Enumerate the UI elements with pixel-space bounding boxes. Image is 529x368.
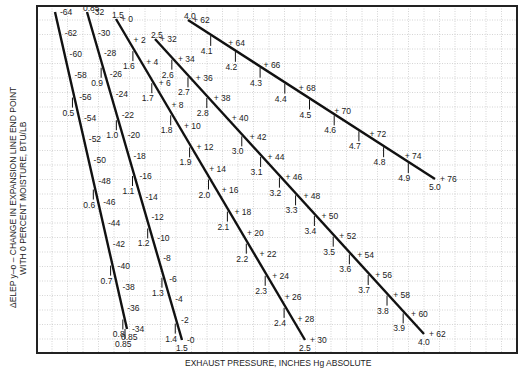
value-label: + 12 — [197, 142, 214, 152]
pressure-label: 4.9 — [398, 173, 410, 183]
value-label: + 46 — [286, 172, 303, 182]
value-label: + 62 — [429, 329, 446, 339]
pressure-label: 3.0 — [232, 146, 244, 156]
pressure-label: 3.8 — [377, 306, 389, 316]
y-axis-label: ΔELEP y–o – CHANGE IN EXPANSION LINE END… — [6, 40, 46, 310]
value-label: -22 — [122, 110, 135, 120]
pressure-label: 0.7 — [101, 276, 113, 286]
pressure-label: 1.3 — [152, 288, 164, 298]
value-label: -10 — [157, 233, 170, 243]
end-pressure-label: 2.5 — [299, 343, 311, 353]
value-label: -6 — [169, 274, 177, 284]
value-label: + 54 — [357, 250, 374, 260]
value-label: -38 — [122, 282, 135, 292]
pressure-label: 1.1 — [123, 186, 135, 196]
value-label: -36 — [127, 303, 140, 313]
pressure-label: 1.9 — [180, 157, 192, 167]
value-label: + 22 — [260, 249, 277, 259]
pressure-label: 3.7 — [358, 285, 370, 295]
value-label: -0 — [187, 335, 195, 345]
value-label: + 50 — [321, 211, 338, 221]
value-label: -52 — [89, 134, 102, 144]
value-label: -28 — [104, 48, 117, 58]
value-label: -56 — [79, 92, 92, 102]
pressure-label: 4.8 — [374, 157, 386, 167]
y-axis-label-line1: ΔELEP y–o – CHANGE IN EXPANSION LINE END… — [8, 87, 18, 308]
x-axis-label: EXHAUST PRESSURE, INCHES Hg ABSOLUTE — [185, 358, 371, 368]
pressure-label: 0.6 — [83, 200, 95, 210]
value-label: -62 — [65, 28, 78, 38]
expansion-curves: -64-62-60-58-56-54-52-50-48-46-44-42-40-… — [55, 3, 457, 353]
value-label: + 40 — [232, 113, 249, 123]
value-label: -40 — [118, 261, 131, 271]
value-label: -18 — [134, 151, 147, 161]
pressure-label: 2.2 — [236, 254, 248, 264]
value-label: + 30 — [310, 335, 327, 345]
start-pressure-label: 1.5 — [112, 10, 124, 20]
value-label: -2 — [181, 315, 189, 325]
pressure-label: 3.5 — [323, 247, 335, 257]
value-label: -50 — [94, 155, 107, 165]
value-label: + 74 — [405, 151, 422, 161]
pressure-label: 4.1 — [201, 46, 213, 56]
value-label: -26 — [110, 69, 123, 79]
value-label: + 68 — [299, 83, 316, 93]
pressure-label: 1.0 — [106, 130, 118, 140]
value-label: + 6 — [159, 78, 171, 88]
value-label: -16 — [140, 171, 153, 181]
pressure-label: 1.2 — [138, 238, 150, 248]
value-label: + 56 — [375, 270, 392, 280]
value-label: + 76 — [440, 174, 457, 184]
value-label: + 44 — [268, 152, 285, 162]
pressure-label: 1.6 — [123, 61, 135, 71]
value-label: + 70 — [334, 106, 351, 116]
pressure-label: 4.4 — [275, 94, 287, 104]
pressure-label: 2.8 — [197, 108, 209, 118]
value-label: + 42 — [250, 132, 267, 142]
value-label: -46 — [103, 197, 116, 207]
value-label: + 48 — [303, 191, 320, 201]
y-axis-label-line2: WITH 0 PERCENT MOISTURE, BTU/LB — [18, 122, 28, 275]
value-label: + 34 — [178, 54, 195, 64]
pressure-label: 2.7 — [178, 87, 190, 97]
value-label: -24 — [116, 89, 129, 99]
value-label: + 8 — [171, 100, 183, 110]
start-pressure-label: 2.5 — [151, 30, 163, 40]
pressure-label: 2.0 — [199, 190, 211, 200]
value-label: + 60 — [411, 309, 428, 319]
value-label: -44 — [108, 218, 121, 228]
value-label: + 38 — [214, 93, 231, 103]
start-pressure-label: 0.85 — [83, 3, 100, 13]
pressure-label: 4.3 — [250, 78, 262, 88]
pressure-label: 1.8 — [161, 125, 173, 135]
pressure-label: 3.1 — [251, 167, 263, 177]
value-label: + 52 — [339, 231, 356, 241]
value-label: -8 — [163, 253, 171, 263]
value-label: -42 — [113, 239, 126, 249]
value-label: -64 — [60, 7, 73, 17]
pressure-label: 3.9 — [393, 323, 405, 333]
value-label: -14 — [145, 192, 158, 202]
value-label: -30 — [98, 28, 111, 38]
curve-line — [55, 12, 127, 329]
value-label: + 58 — [393, 290, 410, 300]
value-label: -4 — [175, 294, 183, 304]
pressure-label: 2.6 — [162, 70, 174, 80]
value-label: -12 — [151, 212, 164, 222]
value-label: + 4 — [146, 57, 158, 67]
pressure-label: 1.7 — [142, 93, 154, 103]
pressure-label: 3.6 — [339, 264, 351, 274]
end-pressure-label: 4.0 — [418, 337, 430, 347]
pressure-label: 4.2 — [225, 62, 237, 72]
value-label: -60 — [70, 49, 83, 59]
value-label: + 64 — [228, 38, 245, 48]
value-label: -58 — [74, 70, 87, 80]
value-label: -54 — [84, 113, 97, 123]
pressure-label: 4.5 — [300, 110, 312, 120]
value-label: + 72 — [369, 129, 386, 139]
value-label: + 66 — [264, 60, 281, 70]
pressure-label: 4.7 — [349, 141, 361, 151]
value-label: + 2 — [134, 35, 146, 45]
value-label: + 10 — [184, 121, 201, 131]
